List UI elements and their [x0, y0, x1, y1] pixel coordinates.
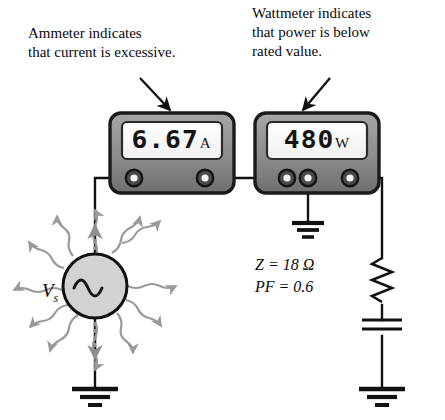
callout-arrow-wattmeter	[303, 78, 330, 110]
ammeter-annotation-text: Ammeter indicates that current is excess…	[28, 24, 243, 62]
load-impedance-label: Z = 18 Ω	[255, 256, 314, 274]
load-power-factor-label: PF = 0.6	[255, 278, 313, 296]
wattmeter-readout: 480 W	[271, 125, 363, 155]
wattmeter-reading-value: 480	[284, 125, 335, 154]
wattmeter-reading-unit: W	[335, 135, 349, 152]
source-voltage-subscript: s	[54, 291, 59, 305]
ammeter-reading-value: 6.67	[132, 125, 199, 154]
ammeter-reading-unit: A	[200, 135, 211, 152]
ammeter-readout: 6.67 A	[126, 125, 218, 155]
callout-arrow-ammeter	[140, 78, 170, 110]
callout-arrows-layer	[0, 0, 445, 420]
circuit-diagram-figure: Ammeter indicates that current is excess…	[0, 0, 445, 420]
source-voltage-symbol: V	[42, 280, 54, 301]
source-voltage-label: Vs	[42, 280, 58, 306]
wattmeter-annotation-text: Wattmeter indicates that power is below …	[252, 4, 437, 62]
